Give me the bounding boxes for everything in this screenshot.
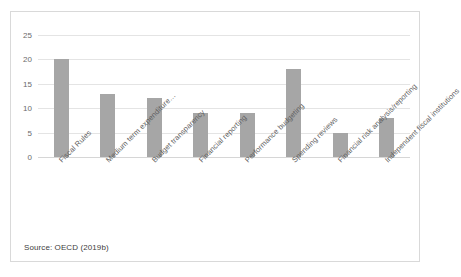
y-tick-label: 5 — [27, 128, 32, 137]
y-tick-label: 10 — [23, 104, 32, 113]
chart-figure: 0510152025 Fiscal RulesMedium term expen… — [10, 11, 420, 262]
y-tick-label: 25 — [23, 31, 32, 40]
y-tick-label: 15 — [23, 79, 32, 88]
y-tick-label: 0 — [27, 153, 32, 162]
bar — [54, 59, 69, 157]
x-axis-category-labels: Fiscal RulesMedium term expenditure…Budg… — [38, 158, 410, 246]
y-tick-label: 20 — [23, 55, 32, 64]
source-note: Source: OECD (2019b) — [24, 243, 109, 252]
